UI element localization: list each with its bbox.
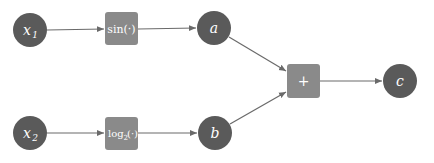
edge-sin-a: [138, 28, 196, 29]
node-x1: x 1: [13, 13, 47, 47]
node-label-sin: sin(·): [107, 23, 135, 36]
node-subscript-x1: 1: [32, 30, 38, 40]
node-suffix-log: (·): [127, 128, 138, 139]
node-sin: sin(·): [105, 12, 138, 45]
node-b: b: [198, 116, 232, 150]
node-label-plus: +: [298, 73, 310, 89]
node-label-a: a: [210, 20, 218, 36]
node-label-log: log: [108, 128, 124, 139]
node-a: a: [197, 11, 231, 45]
node-c: c: [383, 64, 417, 98]
node-label-x2: x: [23, 125, 31, 141]
edge-a-plus: [229, 37, 286, 71]
node-plus: +: [287, 64, 320, 98]
edge-b-plus: [230, 92, 286, 124]
node-label-c: c: [396, 73, 404, 89]
node-label-x1: x: [23, 22, 31, 38]
node-log: log 2 (·): [105, 117, 138, 150]
edge-x1-sin: [47, 29, 104, 30]
node-x2: x 2: [13, 116, 47, 150]
computation-graph: x 1 sin(·) a x 2 log 2 (·) b + c: [0, 0, 434, 163]
node-label-b: b: [211, 125, 220, 141]
node-subscript-x2: 2: [31, 133, 38, 143]
